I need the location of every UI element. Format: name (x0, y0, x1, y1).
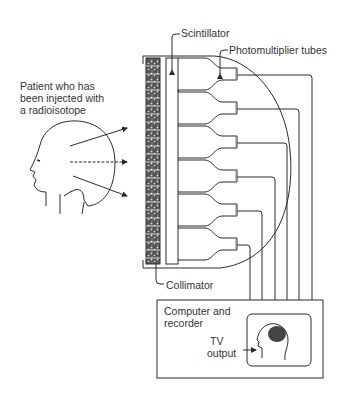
tv-output-label: TV output (209, 335, 236, 359)
patient-label: Patient who has been injected with a rad… (20, 80, 104, 116)
patient-head-icon (30, 121, 115, 214)
computer-label-line: Computer and (164, 305, 231, 317)
scintillator-label: Scintillator (181, 27, 229, 39)
photomultiplier-tubes (178, 58, 237, 260)
gamma-ray-arrow (73, 176, 127, 196)
scintillator-crystal (166, 58, 178, 264)
collimator-block (146, 58, 160, 264)
gamma-camera-diagram (0, 0, 356, 400)
patient-label-line: been injected with (20, 92, 104, 104)
photomultiplier-pointer (220, 50, 228, 74)
patient-label-line: Patient who has (20, 80, 104, 92)
collimator-label: Collimator (166, 279, 213, 291)
patient-label-line: a radioisotope (20, 104, 104, 116)
tv-label-line: TV (209, 335, 236, 347)
photomultiplier-label: Photomultiplier tubes (229, 44, 327, 56)
signal-wires (237, 75, 312, 300)
collimator-pointer (156, 264, 164, 284)
computer-label-line: recorder (164, 317, 231, 329)
detector-housing (214, 56, 291, 268)
computer-label: Computer and recorder (164, 305, 231, 329)
gamma-ray-arrow (70, 128, 127, 146)
tv-label-line: output (207, 347, 236, 359)
